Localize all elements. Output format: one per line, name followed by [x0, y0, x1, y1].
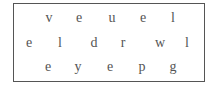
letter-r2-c5: w — [155, 36, 165, 50]
letter-r2-c1: e — [26, 36, 32, 50]
letter-r1-c3: u — [109, 11, 116, 25]
letter-r2-c6: l — [185, 36, 189, 50]
letter-r3-c3: e — [107, 60, 113, 74]
letter-r2-c2: l — [58, 36, 62, 50]
letter-r3-c1: e — [45, 60, 51, 74]
letter-r3-c5: g — [170, 60, 177, 74]
letter-r1-c5: l — [171, 11, 175, 25]
letter-r2-c3: d — [91, 36, 98, 50]
letter-r1-c1: v — [46, 11, 53, 25]
letter-r2-c4: r — [121, 36, 126, 50]
letter-r3-c2: y — [75, 60, 82, 74]
letter-r1-c2: e — [76, 11, 82, 25]
letter-r3-c4: p — [139, 60, 146, 74]
letter-r1-c4: e — [140, 11, 146, 25]
